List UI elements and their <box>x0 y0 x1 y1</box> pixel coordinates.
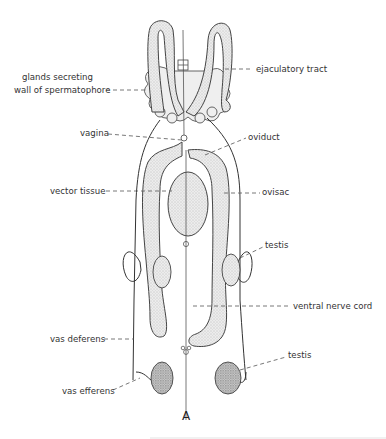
vagina-node <box>181 135 187 141</box>
label-oviduct: oviduct <box>248 132 280 142</box>
figure-caption: A <box>182 409 191 423</box>
label-vagina: vagina <box>80 128 109 138</box>
label-vector-tissue: vector tissue <box>50 186 105 196</box>
upper-right-testis <box>222 254 240 286</box>
lower-left-testis <box>151 362 173 394</box>
lower-right-testis <box>215 362 241 394</box>
label-ventral-nerve-cord: ventral nerve cord <box>293 301 372 311</box>
label-testis-lower: testis <box>288 350 312 360</box>
label-glands-line1: glands secreting <box>22 72 93 82</box>
label-glands-line2: wall of spermatophore <box>14 85 110 95</box>
label-testis-upper: testis <box>265 240 289 250</box>
label-vas-deferens: vas deferens <box>50 334 106 344</box>
left-loop <box>123 252 141 282</box>
left-ovisac-arm <box>143 142 183 337</box>
vector-tissue-sac <box>168 172 208 236</box>
label-vas-efferens: vas efferens <box>62 386 115 396</box>
label-ovisac: ovisac <box>262 187 289 197</box>
label-ejaculatory-tract: ejaculatory tract <box>256 64 328 74</box>
reproductive-system-diagram: glands secreting wall of spermatophore e… <box>0 0 386 439</box>
upper-left-testis <box>153 256 171 288</box>
